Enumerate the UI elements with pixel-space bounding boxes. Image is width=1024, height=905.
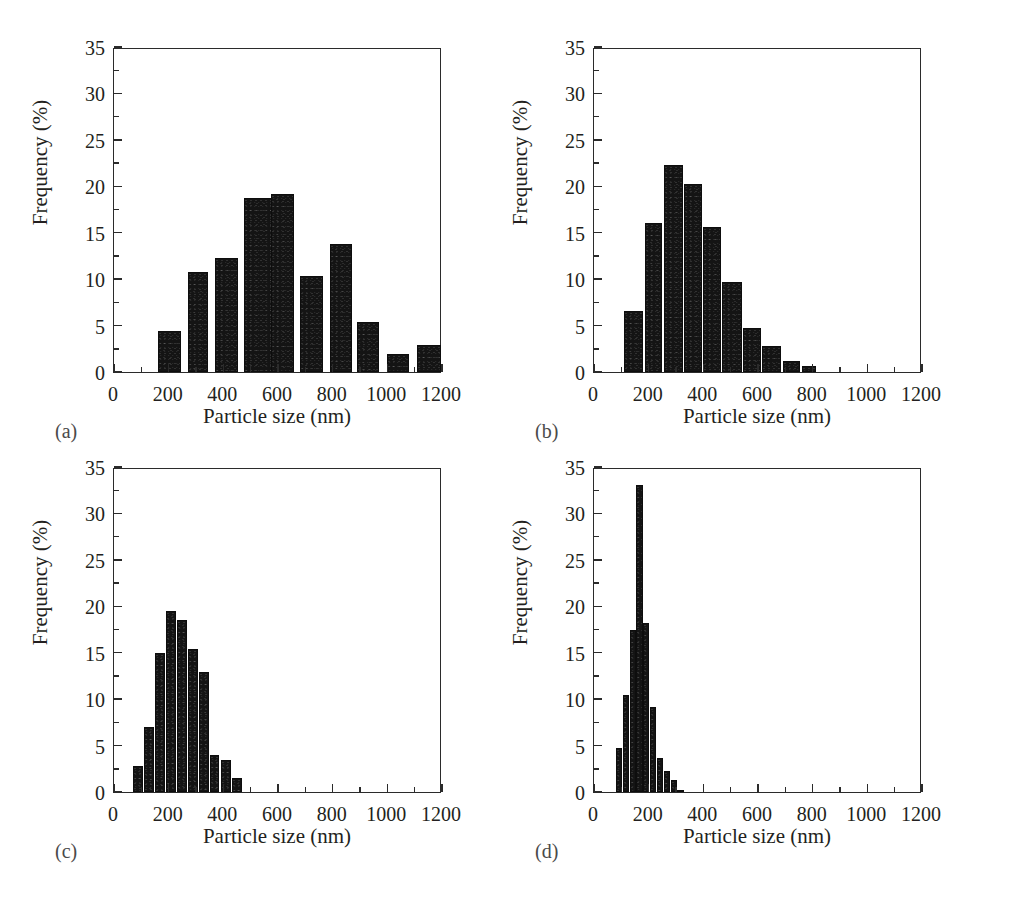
plot-area-a bbox=[113, 48, 441, 373]
x-tick-minor bbox=[785, 367, 786, 372]
bar bbox=[636, 485, 642, 792]
y-axis-title-a: Frequency (%) bbox=[28, 63, 53, 263]
x-tick bbox=[387, 784, 388, 792]
bar bbox=[664, 165, 683, 372]
y-tick bbox=[594, 745, 602, 746]
bar bbox=[417, 345, 440, 372]
x-tick bbox=[921, 364, 922, 372]
y-tick-label: 35 bbox=[59, 38, 105, 58]
y-tick-label: 0 bbox=[59, 783, 105, 803]
plot-area-d bbox=[593, 468, 921, 793]
y-tick bbox=[114, 139, 122, 140]
x-tick-minor bbox=[141, 787, 142, 792]
x-tick-minor bbox=[621, 367, 622, 372]
x-tick-minor bbox=[359, 367, 360, 372]
x-tick bbox=[441, 364, 442, 372]
x-tick bbox=[168, 364, 169, 372]
y-tick bbox=[114, 698, 122, 699]
y-tick-minor bbox=[114, 582, 119, 583]
x-tick-minor bbox=[305, 367, 306, 372]
y-tick-minor bbox=[594, 768, 599, 769]
x-tick bbox=[277, 364, 278, 372]
y-tick bbox=[114, 745, 122, 746]
y-tick bbox=[114, 46, 122, 47]
y-tick-minor bbox=[114, 490, 119, 491]
y-tick bbox=[594, 791, 602, 792]
bar bbox=[624, 311, 643, 372]
y-tick-label: 0 bbox=[59, 363, 105, 383]
y-tick-label: 30 bbox=[539, 504, 585, 524]
bar bbox=[144, 727, 154, 792]
panel-a: Particle size (nm) Frequency (%) (a) 020… bbox=[0, 0, 480, 452]
y-tick-label: 20 bbox=[59, 177, 105, 197]
y-axis-title-d: Frequency (%) bbox=[508, 483, 533, 683]
panel-tag-c: (c) bbox=[55, 840, 77, 863]
y-tick-minor bbox=[114, 70, 119, 71]
y-tick-label: 15 bbox=[539, 644, 585, 664]
x-tick-label: 1200 bbox=[886, 384, 956, 404]
y-tick-minor bbox=[114, 629, 119, 630]
x-tick-minor bbox=[195, 787, 196, 792]
bar bbox=[722, 282, 741, 372]
x-tick bbox=[223, 364, 224, 372]
x-tick-minor bbox=[621, 787, 622, 792]
y-tick-minor bbox=[594, 116, 599, 117]
y-tick-label: 25 bbox=[539, 551, 585, 571]
y-tick bbox=[114, 371, 122, 372]
y-tick-minor bbox=[594, 70, 599, 71]
bar bbox=[300, 276, 323, 372]
y-tick-label: 15 bbox=[59, 644, 105, 664]
x-axis-title-c: Particle size (nm) bbox=[113, 824, 441, 849]
x-tick bbox=[648, 364, 649, 372]
y-tick bbox=[114, 791, 122, 792]
x-tick bbox=[332, 784, 333, 792]
y-tick bbox=[594, 93, 602, 94]
plot-area-c bbox=[113, 468, 441, 793]
y-tick-label: 0 bbox=[539, 783, 585, 803]
y-tick-minor bbox=[594, 162, 599, 163]
x-tick bbox=[867, 364, 868, 372]
y-tick-minor bbox=[594, 536, 599, 537]
x-tick-minor bbox=[730, 367, 731, 372]
y-tick bbox=[594, 371, 602, 372]
y-tick-minor bbox=[114, 255, 119, 256]
x-tick bbox=[757, 364, 758, 372]
bar bbox=[166, 611, 176, 792]
y-tick bbox=[114, 278, 122, 279]
bars-d bbox=[594, 469, 920, 792]
y-tick bbox=[114, 93, 122, 94]
bar bbox=[357, 322, 379, 372]
x-tick bbox=[703, 364, 704, 372]
bars-a bbox=[114, 49, 440, 372]
bar bbox=[703, 227, 721, 372]
y-tick bbox=[594, 559, 602, 560]
y-tick-minor bbox=[114, 302, 119, 303]
y-tick-minor bbox=[594, 722, 599, 723]
y-tick-label: 20 bbox=[59, 597, 105, 617]
x-tick-minor bbox=[839, 367, 840, 372]
bar bbox=[664, 771, 670, 792]
y-axis-title-c: Frequency (%) bbox=[28, 483, 53, 683]
bar bbox=[645, 223, 663, 373]
y-tick-minor bbox=[594, 209, 599, 210]
bar bbox=[802, 366, 816, 373]
y-tick-minor bbox=[114, 116, 119, 117]
bar bbox=[630, 630, 636, 792]
y-tick bbox=[114, 559, 122, 560]
x-tick bbox=[168, 784, 169, 792]
y-tick-label: 35 bbox=[539, 38, 585, 58]
bar bbox=[215, 258, 238, 372]
y-tick-minor bbox=[114, 768, 119, 769]
bar bbox=[762, 346, 781, 372]
y-tick-minor bbox=[594, 629, 599, 630]
y-tick bbox=[594, 232, 602, 233]
x-tick-minor bbox=[414, 367, 415, 372]
y-tick bbox=[114, 513, 122, 514]
bar bbox=[616, 748, 622, 792]
y-tick-minor bbox=[114, 162, 119, 163]
y-tick-label: 30 bbox=[539, 84, 585, 104]
x-tick-minor bbox=[414, 787, 415, 792]
y-tick-label: 15 bbox=[539, 224, 585, 244]
bar bbox=[330, 244, 352, 372]
x-tick-minor bbox=[359, 787, 360, 792]
